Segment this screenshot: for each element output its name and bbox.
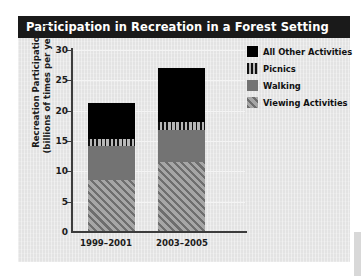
y-axis-label-line2: (billions of times per year) [42, 14, 53, 164]
y-tick-label-5: 5 [46, 197, 68, 207]
vertical-stripe-swatch-icon [247, 63, 258, 74]
bar-segment-picnics-2003-2005 [158, 122, 205, 130]
solid-gray-swatch-icon [247, 80, 258, 91]
bar-segment-picnics-1999-2001 [88, 139, 135, 146]
legend-label-walking: Walking [263, 81, 301, 91]
legend-label-all-other-activities: All Other Activities [263, 47, 352, 57]
legend-item-viewing-activities: Viewing Activities [247, 95, 351, 110]
legend-item-walking: Walking [247, 78, 351, 93]
legend-item-picnics: Picnics [247, 61, 351, 76]
bar-segment-viewing-activities-1999-2001 [88, 180, 135, 232]
diagonal-hatch-swatch-icon [247, 97, 258, 108]
bar-segment-walking-2003-2005 [158, 130, 205, 162]
y-axis-label: Recreation Participation (billions of ti… [31, 14, 53, 164]
y-axis-label-line1: Recreation Participation [31, 14, 42, 164]
bar-segment-viewing-activities-2003-2005 [158, 162, 205, 232]
solid-black-swatch-icon [247, 46, 258, 57]
legend-item-all-other-activities: All Other Activities [247, 44, 351, 59]
legend-label-picnics: Picnics [263, 64, 296, 74]
plot-area [72, 50, 245, 232]
chart-figure: Participation in Recreation in a Forest … [0, 0, 361, 276]
x-tick-label-2003-2005: 2003–2005 [142, 238, 222, 248]
x-tick-label-1999-2001: 1999–2001 [66, 238, 146, 248]
bar-segment-all-other-activities-1999-2001 [88, 103, 135, 139]
page-edge-tab [354, 232, 361, 276]
y-tick-label-10: 10 [46, 166, 68, 176]
bar-segment-walking-1999-2001 [88, 146, 135, 180]
bar-segment-all-other-activities-2003-2005 [158, 68, 205, 122]
gridline-30 [72, 50, 245, 51]
legend-label-viewing-activities: Viewing Activities [263, 98, 348, 108]
chart-legend: All Other Activities Picnics Walking Vie… [247, 44, 351, 112]
y-tick-label-0: 0 [46, 227, 68, 237]
x-axis-line [71, 231, 247, 233]
